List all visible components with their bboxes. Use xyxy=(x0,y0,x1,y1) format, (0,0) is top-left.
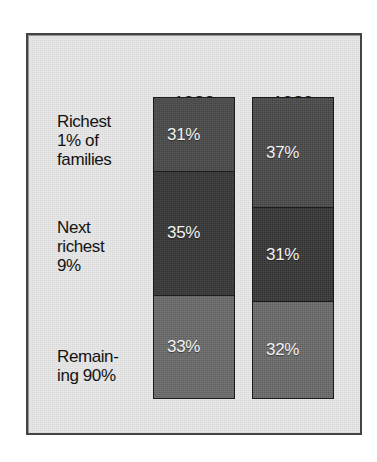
bar-segment-1989-remaining-90: 32% xyxy=(252,301,334,399)
bar-segment-1989-richest-1: 37% xyxy=(252,97,334,209)
bar-segment-value: 31% xyxy=(253,245,333,265)
bar-segment-1983-next-richest-9: 35% xyxy=(153,171,235,297)
bar-segment-value: 31% xyxy=(154,125,234,145)
bar-segment-1983-remaining-90: 33% xyxy=(153,295,235,399)
stacked-bar-1989: 37% 31% 32% xyxy=(252,97,334,402)
bar-segment-value: 32% xyxy=(253,340,333,360)
bar-segment-1983-richest-1: 31% xyxy=(153,97,235,172)
bar-segment-value: 37% xyxy=(253,143,333,163)
stacked-bar-1983: 31% 35% 33% xyxy=(153,97,235,402)
bar-segment-value: 35% xyxy=(154,223,234,243)
bar-segment-1989-next-richest-9: 31% xyxy=(252,207,334,302)
bar-segment-value: 33% xyxy=(154,337,234,357)
chart-frame: 1983 1989 Richest 1% of families Next ri… xyxy=(26,33,362,435)
